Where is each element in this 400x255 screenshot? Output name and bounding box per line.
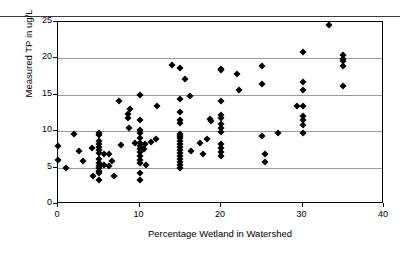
data-point bbox=[177, 64, 184, 71]
y-tick-label: 20 bbox=[12, 52, 52, 61]
x-tick-mark bbox=[302, 203, 303, 207]
data-point bbox=[204, 136, 211, 143]
data-point bbox=[299, 102, 306, 109]
data-point bbox=[177, 109, 184, 116]
data-point bbox=[234, 70, 241, 77]
y-tick-label: 5 bbox=[12, 162, 52, 171]
data-point bbox=[177, 96, 184, 103]
data-point bbox=[95, 176, 102, 183]
data-point bbox=[186, 92, 193, 99]
data-point bbox=[340, 63, 347, 70]
data-point bbox=[299, 121, 306, 128]
scatter-chart-figure: Measured TP in ug/L 0510152025 010203040… bbox=[0, 0, 400, 255]
data-point bbox=[235, 86, 242, 93]
data-point bbox=[136, 176, 143, 183]
data-point bbox=[258, 132, 265, 139]
data-point bbox=[116, 97, 123, 104]
data-point bbox=[136, 160, 143, 167]
data-point bbox=[136, 91, 143, 98]
data-point bbox=[117, 141, 124, 148]
data-point bbox=[258, 62, 265, 69]
data-point bbox=[105, 150, 112, 157]
x-tick-label: 20 bbox=[200, 210, 240, 219]
x-tick-mark bbox=[57, 203, 58, 207]
data-point bbox=[54, 156, 61, 163]
data-point bbox=[76, 147, 83, 154]
data-point bbox=[111, 173, 118, 180]
data-point bbox=[200, 150, 207, 157]
data-point bbox=[125, 115, 132, 122]
data-point bbox=[325, 21, 332, 28]
y-tick-label: 0 bbox=[12, 198, 52, 207]
data-point bbox=[182, 75, 189, 82]
x-tick-mark bbox=[383, 203, 384, 207]
data-point bbox=[169, 61, 176, 68]
data-point bbox=[153, 102, 160, 109]
y-tick-label: 25 bbox=[12, 16, 52, 25]
data-point bbox=[217, 98, 224, 105]
x-tick-label: 30 bbox=[282, 210, 322, 219]
x-tick-label: 10 bbox=[119, 210, 159, 219]
data-point bbox=[187, 147, 194, 154]
gridline-y-15 bbox=[58, 95, 382, 96]
plot-area bbox=[57, 21, 383, 203]
y-tick-label: 15 bbox=[12, 89, 52, 98]
data-point bbox=[258, 80, 265, 87]
data-point bbox=[80, 158, 87, 165]
x-tick-mark bbox=[220, 203, 221, 207]
data-point bbox=[136, 116, 143, 123]
data-point bbox=[299, 129, 306, 136]
data-point bbox=[63, 165, 70, 172]
data-point bbox=[340, 83, 347, 90]
data-point bbox=[299, 87, 306, 94]
top-border-rule bbox=[0, 16, 400, 17]
gridline-y-20 bbox=[58, 58, 382, 59]
x-axis-label: Percentage Wetland in Watershed bbox=[57, 228, 383, 239]
y-tick-label: 10 bbox=[12, 125, 52, 134]
x-tick-mark bbox=[139, 203, 140, 207]
data-point bbox=[217, 152, 224, 159]
data-point bbox=[89, 144, 96, 151]
data-point bbox=[299, 48, 306, 55]
data-point bbox=[196, 139, 203, 146]
data-point bbox=[261, 151, 268, 158]
data-point bbox=[299, 79, 306, 86]
data-point bbox=[54, 142, 61, 149]
x-tick-label: 40 bbox=[363, 210, 400, 219]
x-tick-label: 0 bbox=[37, 210, 77, 219]
data-point bbox=[217, 128, 224, 135]
data-point bbox=[261, 158, 268, 165]
